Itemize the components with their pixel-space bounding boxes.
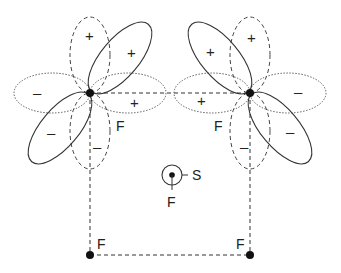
central-s-atom: S F: [162, 165, 201, 210]
label-f-top-left: F: [116, 118, 125, 134]
atom-f-bottom-left: [86, 251, 94, 259]
right-horizontal-lobe-right: [250, 73, 326, 113]
atom-f-top-left: [86, 89, 94, 97]
label-s-center: S: [192, 167, 201, 183]
sign-right-vertical-bottom: –: [240, 138, 249, 155]
sign-left-diagonal-lower: –: [47, 124, 56, 141]
sign-left-horizontal-left: –: [33, 84, 42, 101]
sign-left-diagonal-upper: +: [127, 44, 136, 61]
sign-right-horizontal-right: –: [294, 83, 303, 100]
sign-left-vertical-top: +: [85, 27, 94, 44]
label-f-bottom-right: F: [236, 236, 245, 252]
sign-right-diagonal-upper: +: [206, 43, 215, 60]
atom-f-bottom-right: [246, 251, 254, 259]
orbital-diagram: + + – + – – + + + – – – F F F F S F: [0, 0, 341, 273]
label-f-bottom-left: F: [97, 236, 106, 252]
label-f-center: F: [167, 194, 176, 210]
sign-right-horizontal-left: +: [197, 92, 206, 109]
label-f-top-right: F: [214, 118, 223, 134]
sign-left-horizontal-right: +: [130, 94, 139, 111]
left-atom-signs: + + – + – –: [33, 27, 139, 155]
sign-left-vertical-bottom: –: [93, 138, 102, 155]
left-horizontal-lobe-left: [14, 73, 90, 113]
atom-f-top-right: [246, 89, 254, 97]
sign-right-vertical-top: +: [247, 29, 256, 46]
sign-right-diagonal-lower: –: [286, 123, 295, 140]
